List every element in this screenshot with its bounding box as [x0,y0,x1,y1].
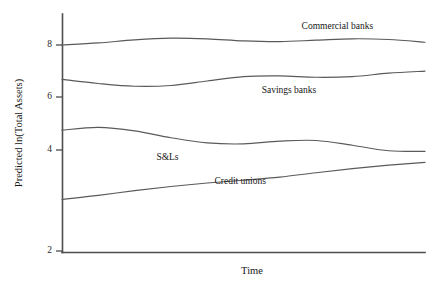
chart-container: 8 6 4 2 Commercial banks Savings banks S… [0,0,432,285]
series-label-s-and-ls: S&Ls [156,152,178,162]
series-label-savings-banks: Savings banks [262,85,317,95]
line-chart: 8 6 4 2 Commercial banks Savings banks S… [0,0,432,285]
y-axis-title: Predicted ln(Total Assets) [13,78,25,187]
series-label-credit-unions: Credit unions [214,176,266,186]
x-axis-title: Time [241,265,263,276]
series-label-commercial-banks: Commercial banks [302,21,374,31]
y-tick-label: 4 [47,144,52,154]
y-tick-label: 8 [47,39,52,49]
chart-background [0,0,432,285]
y-tick-label: 6 [47,91,52,101]
y-tick-label: 2 [47,245,52,255]
